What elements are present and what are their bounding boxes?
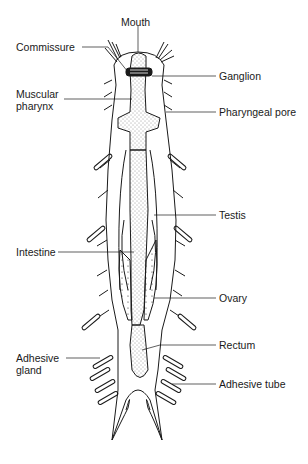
rectum <box>130 325 148 378</box>
gastrotrich-drawing <box>0 0 308 464</box>
ganglion-shape <box>126 68 152 76</box>
label-ovary: Ovary <box>219 292 247 304</box>
label-ganglion: Ganglion <box>219 70 261 82</box>
label-rectum: Rectum <box>219 339 255 351</box>
label-intestine: Intestine <box>16 246 56 258</box>
label-pharyngeal-pore: Pharyngeal pore <box>219 106 296 118</box>
label-adhesive-tube: Adhesive tube <box>219 378 286 390</box>
label-muscular-pharynx: Muscular pharynx <box>16 88 59 112</box>
label-adhesive-gland: Adhesive gland <box>16 352 59 376</box>
label-commissure: Commissure <box>16 41 75 53</box>
label-mouth: Mouth <box>121 16 150 28</box>
label-testis: Testis <box>219 209 246 221</box>
